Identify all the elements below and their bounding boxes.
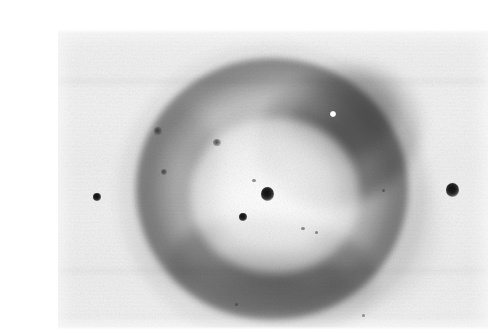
plate-image-frame xyxy=(58,30,488,329)
scan-band-upper xyxy=(58,78,488,85)
frame-edge-bottom xyxy=(58,326,488,329)
scan-band-bottom xyxy=(58,314,488,319)
scan-banding-layer xyxy=(58,30,488,329)
photographic-plate-figure xyxy=(40,16,492,333)
frame-edge-top xyxy=(58,30,488,33)
scan-band-lower xyxy=(58,268,488,274)
